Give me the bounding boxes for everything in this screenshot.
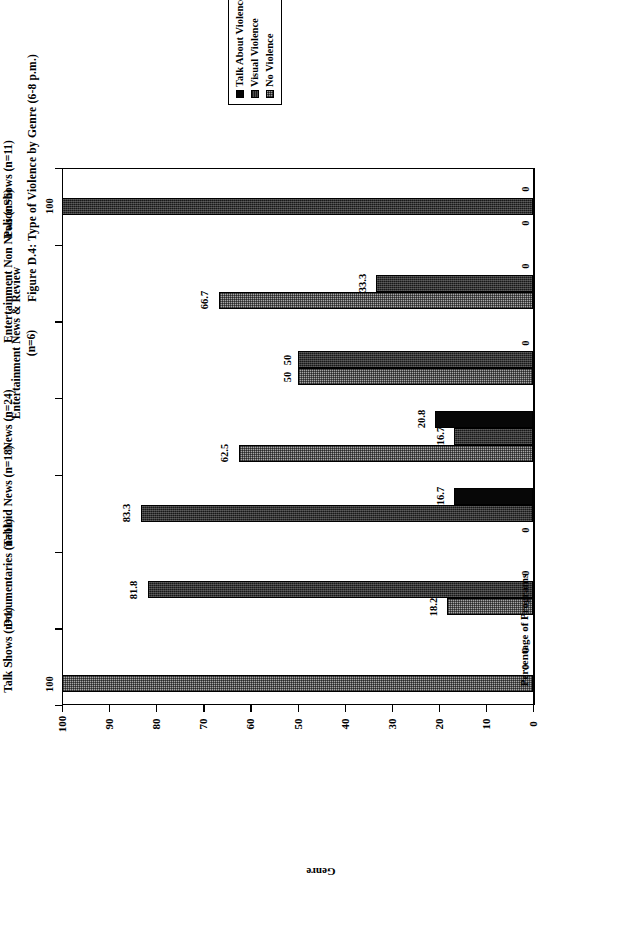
category-tick [55,552,62,553]
bar-row: 0 [62,564,533,581]
bar-visual [454,428,533,445]
value-axis: 0102030405060708090100 [62,705,533,706]
value-tick-label: 90 [103,711,115,737]
category-axis-title: Genre [281,866,361,878]
category-label: Talk Shows (n=1) [1,555,35,745]
bar-group: 16.783.30 [62,475,533,552]
legend-swatch-visual-icon [251,90,259,98]
category-tick [55,628,62,629]
bar-none [239,445,533,462]
bar-value-label: 16.7 [436,487,447,505]
bar-row: 100 [62,198,533,215]
value-axis-baseline [533,168,535,705]
value-tick-label: 60 [244,711,256,737]
bar-group: 033.366.7 [62,245,533,322]
bar-none [219,292,533,309]
bar-value-label: 66.7 [200,291,211,309]
bar-value-label: 81.8 [129,581,140,599]
bar-value-label: 100 [45,198,56,214]
chart-legend: Talk About Violence Visual Violence No V… [228,0,282,105]
bar-visual [148,581,533,598]
bar-row: 33.3 [62,275,533,292]
value-tick-label: 20 [433,711,445,737]
bar-value-label: 0 [521,340,532,345]
bar-row: 50 [62,351,533,368]
bar-row: 0 [62,334,533,351]
bar-row: 16.7 [62,428,533,445]
bar-group: 081.818.2 [62,552,533,629]
bar-value-label: 0 [521,528,532,533]
bar-row: 66.7 [62,292,533,309]
legend-label-talk: Talk About Violence [232,0,247,87]
category-tick [55,475,62,476]
bar-row: 16.7 [62,488,533,505]
bar-none [298,368,534,385]
legend-item-no-violence: No Violence [262,0,277,98]
value-tick-label: 0 [527,711,539,737]
category-axis [55,705,62,941]
bar-group: 20.816.762.5 [62,398,533,475]
bar-row: 83.3 [62,505,533,522]
value-tick-label: 50 [292,711,304,737]
bar-value-label: 0 [521,221,532,226]
bar-value-label: 83.3 [122,504,133,522]
bar-value-label: 0 [521,263,532,268]
bar-value-label: 20.8 [417,410,428,428]
category-tick [55,705,62,706]
bar-visual [62,198,533,215]
bar-row: 81.8 [62,581,533,598]
category-tick [55,168,62,169]
bar-row: 20.8 [62,411,533,428]
legend-item-talk-about-violence: Talk About Violence [232,0,247,98]
legend-item-visual-violence: Visual Violence [247,0,262,98]
legend-swatch-none-icon [266,90,274,98]
bar-value-label: 16.7 [436,427,447,445]
bar-talk [435,411,533,428]
bar-value-label: 62.5 [220,444,231,462]
category-tick [55,321,62,322]
bar-row: 100 [62,675,533,692]
bar-none [62,675,533,692]
bar-talk [454,488,533,505]
value-tick-label: 40 [339,711,351,737]
bar-value-label: 50 [283,372,294,383]
bar-row: 0 [62,641,533,658]
bar-value-label: 0 [521,187,532,192]
bar-row: 0 [62,658,533,675]
bar-row: 18.2 [62,598,533,615]
bar-value-label: 18.2 [429,598,440,616]
bar-value-label: 100 [45,676,56,692]
legend-label-none: No Violence [262,34,277,87]
bar-value-label: 33.3 [358,274,369,292]
value-tick-label: 10 [480,711,492,737]
bar-group: 05050 [62,321,533,398]
bar-visual [298,351,534,368]
legend-swatch-talk-icon [236,90,244,98]
bar-row: 50 [62,368,533,385]
category-tick [55,398,62,399]
bar-visual [376,275,533,292]
bar-group: 00100 [62,628,533,705]
bar-row: 0 [62,258,533,275]
legend-label-visual: Visual Violence [247,18,262,87]
bar-row: 62.5 [62,445,533,462]
value-tick-label: 30 [386,711,398,737]
bar-row: 0 [62,522,533,539]
category-tick [55,245,62,246]
value-tick-label: 70 [197,711,209,737]
value-tick-label: 80 [150,711,162,737]
bar-visual [141,505,533,522]
bar-row: 0 [62,181,533,198]
bar-group: 01000 [62,168,533,245]
value-axis-title: Percentage of Programs [516,550,532,710]
bar-row: 0 [62,215,533,232]
bar-value-label: 50 [283,355,294,366]
